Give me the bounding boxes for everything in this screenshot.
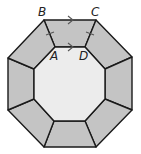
label-d: D (79, 49, 88, 63)
octagon-diagram: B C A D (0, 0, 141, 154)
inner-octagon (34, 47, 105, 121)
label-a: A (49, 49, 58, 63)
label-c: C (91, 5, 100, 19)
label-b: B (38, 5, 46, 19)
